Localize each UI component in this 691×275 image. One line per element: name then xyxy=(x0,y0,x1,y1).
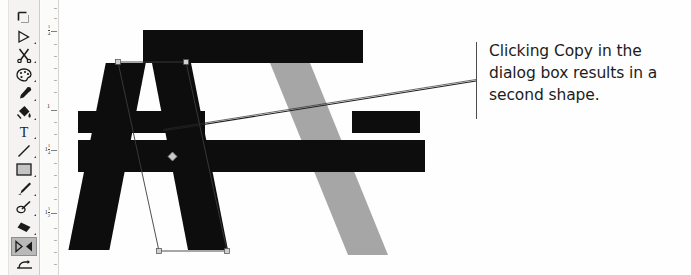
tool-paint-bucket[interactable] xyxy=(11,103,37,122)
ruler-tick xyxy=(54,18,57,19)
selection-handle-bl[interactable] xyxy=(157,249,162,254)
ruler-label: 1 1 2 xyxy=(44,206,50,218)
ruler-label-fraction: 1 2 xyxy=(48,206,50,218)
tool-transform[interactable] xyxy=(11,256,37,275)
tool-flyout-arrow xyxy=(34,137,36,139)
tool-line[interactable] xyxy=(11,141,37,160)
tool-flyout-arrow xyxy=(34,156,36,158)
ruler-tick xyxy=(54,122,57,123)
tool-scissors[interactable] xyxy=(11,46,37,65)
ruler-tick xyxy=(54,44,57,45)
selection-handle-tl[interactable] xyxy=(116,60,121,65)
artwork-svg xyxy=(60,0,440,275)
tool-flyout-arrow xyxy=(34,80,36,82)
ruler-tick xyxy=(54,92,57,93)
ruler-tick xyxy=(54,264,57,265)
tool-palette[interactable] xyxy=(11,65,37,84)
ruler-label: 1 4 xyxy=(48,24,50,36)
ruler-tick xyxy=(51,150,57,151)
callout-vertical-rule xyxy=(476,42,477,119)
tool-text[interactable]: T xyxy=(11,122,37,141)
ruler-tick xyxy=(54,80,57,81)
toolbox-panel: T xyxy=(8,0,40,275)
tool-crop[interactable] xyxy=(11,8,37,27)
paint-bucket-icon xyxy=(16,105,32,120)
ruler-tick xyxy=(54,240,57,241)
ruler-tick xyxy=(54,8,57,9)
tool-flip-mirror[interactable] xyxy=(11,237,37,256)
ruler-tick xyxy=(51,213,57,214)
tool-rectangle[interactable] xyxy=(11,160,37,179)
pencil-eraser-icon xyxy=(16,200,32,215)
ruler-tick xyxy=(54,175,57,176)
transform-icon xyxy=(16,259,33,271)
scissors-icon xyxy=(17,48,32,63)
tool-flyout-arrow xyxy=(34,61,36,63)
eraser-icon xyxy=(16,221,32,234)
tool-select-shape[interactable] xyxy=(11,27,37,46)
text-tool-icon: T xyxy=(17,125,31,139)
image-editor-screenshot: T xyxy=(0,0,691,275)
ruler-tick xyxy=(54,68,57,69)
selection-handle-tr[interactable] xyxy=(184,60,189,65)
rectangle-tool-icon xyxy=(16,163,32,176)
ruler-tick xyxy=(54,199,57,200)
crop-icon xyxy=(17,11,31,24)
tool-eraser[interactable] xyxy=(11,218,37,237)
ruler-label: 1 1 4 xyxy=(44,143,50,155)
pointer-triangle-icon xyxy=(17,30,32,44)
tool-flyout-arrow xyxy=(34,118,36,120)
ruler-label: 1 xyxy=(47,103,50,110)
ruler-tick xyxy=(51,31,57,32)
flip-mirror-icon xyxy=(14,240,34,253)
vertical-ruler[interactable]: 1 4 1 1 1 4 1 1 2 xyxy=(41,0,59,275)
shape-bar-lower xyxy=(78,140,425,172)
ruler-tick xyxy=(54,56,57,57)
tool-pencil-eraser[interactable] xyxy=(11,198,37,217)
tool-flyout-arrow xyxy=(34,175,36,177)
tool-flyout-arrow xyxy=(34,214,36,216)
ruler-label-fraction: 1 4 xyxy=(48,24,50,36)
shape-bar-mid-right xyxy=(352,111,420,133)
artboard[interactable] xyxy=(60,0,440,275)
tool-flyout-arrow xyxy=(34,42,36,44)
ruler-tick xyxy=(54,252,57,253)
svg-text:T: T xyxy=(20,125,29,139)
palette-icon xyxy=(16,68,32,82)
callout-text: Clicking Copy in the dialog box results … xyxy=(489,40,685,106)
tool-flyout-arrow xyxy=(34,194,36,196)
paintbrush-icon xyxy=(17,181,32,196)
tool-eyedropper[interactable] xyxy=(11,84,37,103)
ruler-label-fraction: 1 4 xyxy=(48,143,50,155)
eyedropper-icon xyxy=(17,86,32,101)
ruler-tick xyxy=(54,134,57,135)
ruler-tick xyxy=(51,110,57,111)
selection-handle-br[interactable] xyxy=(225,249,230,254)
tool-flyout-arrow xyxy=(34,233,36,235)
shape-bar-top xyxy=(143,30,363,63)
line-tool-icon xyxy=(17,144,31,158)
ruler-tick xyxy=(54,163,57,164)
ruler-tick xyxy=(54,187,57,188)
tool-flyout-arrow xyxy=(34,99,36,101)
ruler-tick xyxy=(54,228,57,229)
tool-brush[interactable] xyxy=(11,179,37,198)
